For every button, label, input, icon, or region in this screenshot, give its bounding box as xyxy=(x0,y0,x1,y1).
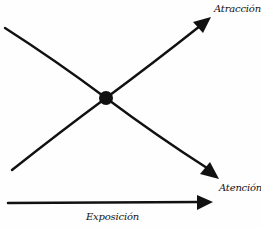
exposicion-label: Exposición xyxy=(86,211,139,222)
diagram-graphic xyxy=(0,0,261,228)
atencion-arrow xyxy=(5,28,219,179)
intersection-dot xyxy=(99,91,113,105)
atraccion-label: Atracción xyxy=(214,3,261,14)
exposicion-arrow xyxy=(8,195,213,210)
atraccion-arrow xyxy=(12,17,211,170)
atencion-label: Atención xyxy=(219,182,261,193)
diagram-canvas: Atracción Atención Exposición xyxy=(0,0,261,228)
